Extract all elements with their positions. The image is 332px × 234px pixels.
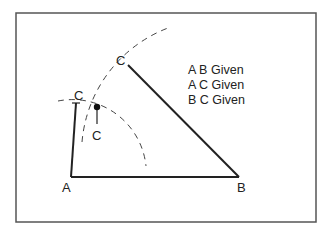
label-c-from-b: C [116, 53, 125, 68]
label-c-intersection: C [92, 128, 101, 143]
construction-diagram: A B C C C A B Given A C Given B C Given [0, 0, 332, 234]
side-ac [71, 103, 76, 177]
label-a: A [62, 180, 71, 195]
label-c-from-a: C [74, 88, 83, 103]
given-ac: A C Given [188, 78, 244, 92]
given-bc: B C Given [188, 93, 245, 107]
intersection-point [94, 104, 100, 110]
label-b: B [237, 180, 246, 195]
frame-border [16, 13, 316, 222]
given-ab: A B Given [188, 63, 244, 77]
arc-from-a [58, 100, 146, 166]
arc-from-b [82, 28, 168, 142]
